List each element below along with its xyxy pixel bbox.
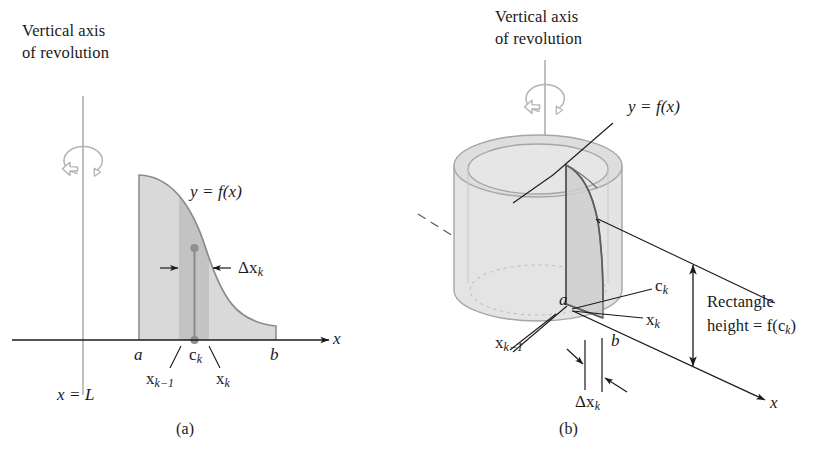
panel-b-delta-x-var: x	[586, 392, 595, 411]
panel-a-leader-xk	[209, 346, 220, 368]
panel-a-tick-xk-base: x	[216, 369, 225, 388]
panel-b-delta-symbol: Δ	[575, 392, 586, 411]
panel-a-tick-xk-sub: k	[225, 376, 230, 390]
panel-b-rectangle-height-line2: height = f(ck)	[707, 317, 796, 337]
panel-b-rectangle-height-suffix: )	[791, 316, 797, 335]
panel-b-height-guide-top	[598, 219, 775, 303]
panel-a-vertical-line-label: x = L	[57, 385, 94, 405]
panel-b-caption: (b)	[559, 420, 578, 438]
panel-b-label-xkminus1: xk−1	[495, 333, 523, 355]
panel-b-label-ck-sub: k	[663, 283, 668, 297]
panel-b-rectangle-height-prefix: height = f(c	[707, 316, 785, 335]
panel-b-curve-label: y = f(x)	[628, 97, 680, 117]
panel-b-label-xkminus1-sub: k−1	[504, 340, 524, 354]
figure-canvas	[0, 0, 840, 461]
panel-a-tick-ck-sub: k	[197, 352, 202, 366]
panel-b-label-xk: xk	[646, 310, 660, 332]
panel-a-x-axis-label: x	[333, 329, 341, 349]
panel-b-axis-title-line2: of revolution	[495, 30, 582, 49]
panel-a-tick-xk: xk	[216, 369, 230, 391]
panel-b-label-ck: ck	[655, 276, 668, 298]
panel-b-graphic	[418, 60, 775, 400]
panel-a-tick-ck-base: c	[189, 345, 197, 364]
panel-b-delta-x-sub: k	[595, 399, 600, 413]
panel-b-rectangle-height-line1: Rectangle	[707, 293, 774, 312]
panel-b-label-xk-base: x	[646, 310, 655, 329]
panel-b-label-a: a	[559, 290, 568, 310]
panel-a-tick-ck: ck	[189, 345, 202, 367]
panel-b-delta-x-label: Δxk	[575, 392, 600, 414]
panel-a-tick-xkminus1-sub: k−1	[155, 376, 175, 390]
panel-a-tick-a: a	[134, 345, 143, 365]
panel-b-label-b: b	[611, 331, 620, 351]
panel-b-label-xkminus1-base: x	[495, 333, 504, 352]
shell-method-figure: Vertical axis of revolution y = f(x) Δxk…	[0, 0, 840, 461]
panel-a-axis-title-line1: Vertical axis	[22, 22, 105, 41]
panel-a-delta-symbol: Δ	[238, 258, 249, 277]
panel-a-dot-top	[190, 244, 198, 252]
panel-a-delta-x-label: Δxk	[238, 258, 263, 280]
panel-a-delta-x-var: x	[249, 258, 258, 277]
panel-a-caption: (a)	[176, 420, 194, 438]
panel-a-leader-xkminus1	[170, 346, 181, 368]
panel-b-delta-arrow-left	[567, 349, 583, 364]
panel-b-label-ck-base: c	[655, 276, 663, 295]
panel-a-tick-xkminus1-base: x	[146, 369, 155, 388]
panel-b-label-xk-sub: k	[655, 317, 660, 331]
panel-b-x-axis-label: x	[770, 393, 778, 413]
panel-a-delta-x-sub: k	[258, 265, 263, 279]
panel-b-axis-title-line1: Vertical axis	[495, 8, 578, 27]
panel-a-graphic	[12, 96, 329, 395]
panel-a-axis-title-line2: of revolution	[22, 44, 109, 63]
panel-a-curve-label: y = f(x)	[190, 182, 242, 202]
panel-a-tick-b: b	[270, 345, 279, 365]
panel-b-delta-arrow-right	[605, 378, 627, 392]
panel-a-tick-xkminus1: xk−1	[146, 369, 174, 391]
